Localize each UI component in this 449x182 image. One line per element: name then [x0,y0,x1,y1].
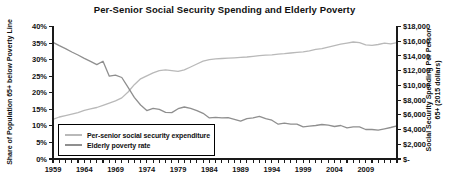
left-tick-label: 5% [36,138,47,147]
chart: 0%5%10%15%20%25%30%35%40%$-$2,000$4,000$… [0,0,449,182]
x-tick-label: 1979 [170,165,187,174]
legend-swatch-poverty-line [65,144,82,146]
legend: Per-senior social security expenditure E… [58,124,215,156]
right-axis-title-line2: 65+ (2015 dollars) [434,29,443,152]
x-tick-label: 1994 [264,165,282,174]
right-axis-title: Social Security Spending Per Person 65+ … [425,29,443,152]
x-tick-label: 2009 [357,165,374,174]
x-tick-label: 1964 [76,165,94,174]
right-tick-label: $6,000 [403,110,426,119]
expenditure-line [53,42,397,119]
right-tick-label: $8,000 [403,96,426,105]
x-axis-ticks: 1959196419691974197919841989199419992004… [45,159,397,174]
right-tick-label: $4,000 [403,125,426,134]
poverty-rate-line [53,42,397,130]
legend-item-poverty: Elderly poverty rate [65,142,214,149]
left-tick-label: 20% [32,88,47,97]
legend-label-expenditure: Per-senior social security expenditure [87,132,210,139]
x-tick-label: 1959 [45,165,62,174]
legend-item-expenditure: Per-senior social security expenditure [65,132,214,139]
legend-swatch-expenditure-line [65,134,82,136]
x-tick-label: 1989 [232,165,249,174]
x-tick-label: 1984 [201,165,219,174]
series-lines [53,42,397,130]
x-tick-label: 2004 [326,165,344,174]
right-axis-title-line1: Social Security Spending Per Person [425,29,434,152]
left-tick-label: 30% [32,55,47,64]
left-tick-label: 40% [32,22,47,31]
left-tick-label: 15% [32,105,47,114]
right-tick-label: $- [403,155,410,164]
legend-label-poverty: Elderly poverty rate [87,142,150,149]
x-tick-label: 1969 [107,165,124,174]
left-axis-title: Share of Population 65+ below Poverty Li… [6,19,13,165]
left-axis-ticks: 0%5%10%15%20%25%30%35%40% [32,22,53,164]
left-tick-label: 10% [32,121,47,130]
right-tick-label: $2,000 [403,140,426,149]
x-tick-label: 1999 [295,165,312,174]
left-tick-label: 25% [32,72,47,81]
left-tick-label: 35% [32,39,47,48]
left-tick-label: 0% [36,155,47,164]
chart-title: Per-Senior Social Security Spending and … [0,4,449,15]
x-tick-label: 1974 [138,165,156,174]
